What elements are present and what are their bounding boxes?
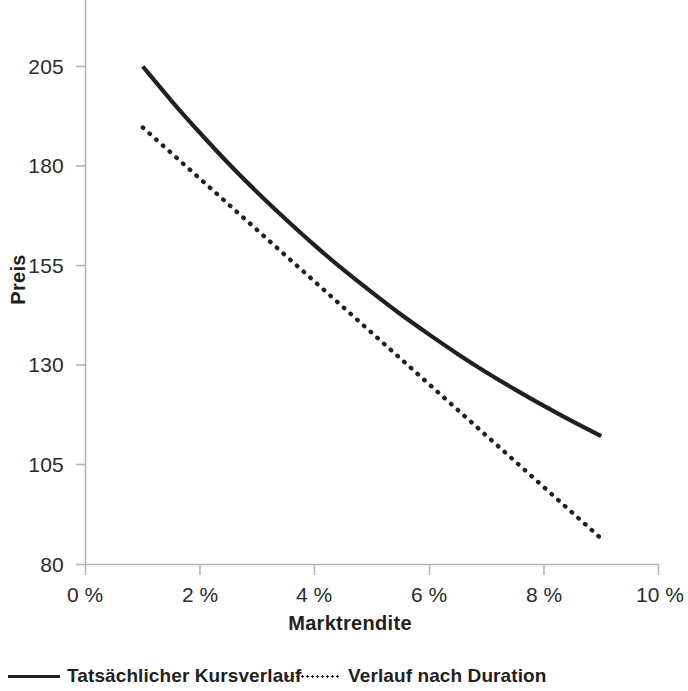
legend-label-actual: Tatsächlicher Kursverlauf xyxy=(67,665,301,687)
y-tick-label: 180 xyxy=(2,155,64,176)
series-line-actual xyxy=(143,67,601,437)
x-tick-label: 8 % xyxy=(499,584,589,605)
x-tick-label: 2 % xyxy=(155,584,245,605)
y-axis-ticks xyxy=(76,67,86,565)
legend-item-duration: Verlauf nach Duration xyxy=(285,660,546,691)
series-line-duration xyxy=(143,127,601,538)
y-tick-label: 130 xyxy=(2,354,64,375)
x-axis-ticks xyxy=(86,565,659,576)
legend-solid-line-icon xyxy=(8,669,60,683)
legend-label-duration: Verlauf nach Duration xyxy=(348,665,546,687)
chart-legend: Tatsächlicher Kursverlauf Verlauf nach D… xyxy=(0,660,670,691)
x-tick-label: 10 % xyxy=(615,584,688,605)
x-tick-label: 4 % xyxy=(269,584,359,605)
y-tick-label: 80 xyxy=(2,554,64,575)
y-axis-title: Preis xyxy=(7,235,30,325)
legend-item-actual: Tatsächlicher Kursverlauf xyxy=(8,660,301,691)
y-tick-label: 105 xyxy=(2,454,64,475)
x-tick-label: 6 % xyxy=(384,584,474,605)
x-tick-label: 0 % xyxy=(40,584,130,605)
x-axis-title: Marktrendite xyxy=(185,612,515,635)
y-tick-label: 205 xyxy=(2,56,64,77)
legend-dotted-line-icon xyxy=(285,669,341,683)
